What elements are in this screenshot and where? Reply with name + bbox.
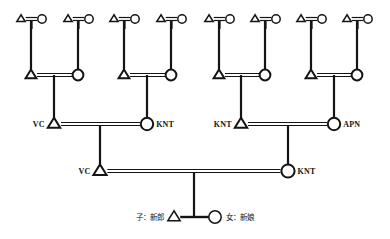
female-symbol-g1-4	[178, 15, 186, 23]
male-symbol-g1-8	[343, 15, 351, 22]
kinship-diagram: VCKNTKNTAPNVCKNT子：新郎女：新娘	[0, 0, 390, 239]
male-symbol-g1-1	[17, 15, 25, 22]
female-symbol-g4-1	[281, 164, 294, 177]
marriage-link-g1-1	[26, 18, 38, 21]
female-symbol-g1-2	[85, 15, 93, 23]
label-g3-male-2: KNT	[214, 120, 232, 129]
female-symbol-g2-3	[260, 70, 271, 81]
labels-layer: VCKNTKNTAPNVCKNT子：新郎女：新娘	[33, 120, 360, 223]
marriage-link-g1-3	[119, 18, 131, 21]
female-symbol-bride	[209, 211, 221, 223]
female-symbol-g2-1	[73, 70, 84, 81]
male-symbol-g2-3	[214, 70, 225, 79]
label-g3-male-1: VC	[33, 120, 45, 129]
marriage-link-g1-8	[352, 18, 364, 21]
male-symbol-groom	[168, 211, 180, 221]
male-symbol-g1-5	[205, 15, 213, 22]
male-symbol-g2-2	[119, 70, 130, 79]
label-groom: 子：新郎	[136, 212, 164, 222]
marriage-link-g1-4	[166, 18, 178, 21]
lines-layer	[26, 18, 364, 218]
female-symbol-g2-2	[166, 70, 177, 81]
female-symbol-g3-1	[141, 118, 153, 130]
male-symbol-g1-3	[110, 15, 118, 22]
kinship-svg: VCKNTKNTAPNVCKNT子：新郎女：新娘	[0, 0, 390, 239]
female-symbol-g1-1	[38, 15, 46, 23]
female-symbol-g2-4	[352, 70, 363, 81]
label-g3-female-2: APN	[343, 120, 360, 129]
male-symbol-g1-6	[251, 15, 259, 22]
female-symbol-g1-7	[318, 15, 326, 23]
label-g3-female-1: KNT	[156, 120, 174, 129]
label-g4-male: VC	[78, 167, 90, 176]
male-symbol-g2-1	[26, 70, 37, 79]
female-symbol-g1-6	[272, 15, 280, 23]
male-symbol-g1-7	[297, 15, 305, 22]
male-symbol-g1-2	[64, 15, 72, 22]
label-g4-female: KNT	[298, 167, 316, 176]
female-symbol-g1-5	[226, 15, 234, 23]
male-symbol-g3-1	[48, 118, 60, 128]
label-bride: 女：新娘	[226, 212, 255, 222]
male-symbol-g3-2	[235, 118, 247, 128]
female-symbol-g1-8	[364, 15, 372, 23]
male-symbol-g4-1	[93, 164, 106, 175]
male-symbol-g1-4	[157, 15, 165, 22]
marriage-link-g1-7	[306, 18, 318, 21]
marriage-link-g1-2	[73, 18, 85, 21]
marriage-link-g1-5	[214, 18, 226, 21]
female-symbol-g1-3	[131, 15, 139, 23]
marriage-link-g1-6	[260, 18, 272, 21]
female-symbol-g3-2	[328, 118, 340, 130]
male-symbol-g2-4	[306, 70, 317, 79]
